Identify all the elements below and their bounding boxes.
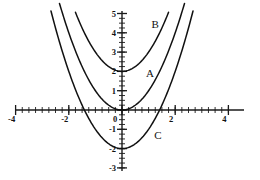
x-tick-label: 2 xyxy=(169,114,173,124)
y-tick-label: 3 xyxy=(112,47,116,57)
curve-label-b: B xyxy=(152,18,159,30)
x-tick-label: 4 xyxy=(222,114,227,124)
parabolas-figure: -4-2024 -3-2-112345 BAC xyxy=(0,0,260,180)
curve-label-a: A xyxy=(146,67,154,79)
curve-label-c: C xyxy=(154,129,161,141)
y-tick-label: 4 xyxy=(112,28,117,38)
y-tick-label: -1 xyxy=(109,124,116,134)
x-tick-labels: -4-2024 xyxy=(8,114,227,124)
x-tick-label: 0 xyxy=(113,114,117,124)
y-tick-label: -3 xyxy=(109,163,116,173)
x-tick-label: -4 xyxy=(8,114,16,124)
x-tick-label: -2 xyxy=(61,114,68,124)
y-tick-label: 1 xyxy=(112,86,116,96)
y-tick-label: 2 xyxy=(112,66,116,76)
y-tick-label: 5 xyxy=(112,9,116,19)
plot-canvas: -4-2024 -3-2-112345 BAC xyxy=(0,0,260,180)
